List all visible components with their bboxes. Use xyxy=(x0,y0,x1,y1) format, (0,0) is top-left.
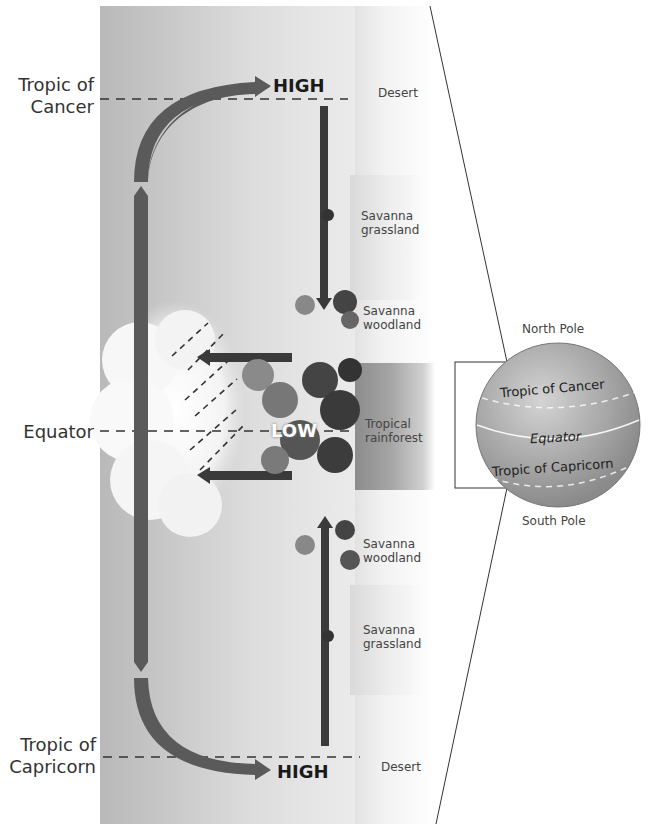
equator-label: Equator xyxy=(0,421,94,443)
savanna-grassland-south-label: Savanna grassland xyxy=(363,623,421,651)
globe-icon xyxy=(476,343,640,507)
tropic-of-cancer-label: Tropic of Cancer xyxy=(0,74,94,118)
globe-equator-label: Equator xyxy=(530,429,582,447)
high-pressure-north-label: HIGH xyxy=(273,75,325,96)
tropic-of-capricorn-label: Tropic of Capricorn xyxy=(0,734,96,778)
north-pole-label: North Pole xyxy=(522,322,584,336)
descending-arrow xyxy=(134,500,148,672)
savanna-grassland-north-label: Savanna grassland xyxy=(361,209,419,237)
savanna-woodland-south-label: Savanna woodland xyxy=(363,537,421,565)
high-pressure-south-label: HIGH xyxy=(277,761,329,782)
savanna-woodland-north-label: Savanna woodland xyxy=(363,304,421,332)
low-pressure-label: LOW xyxy=(271,420,317,441)
desert-north-label: Desert xyxy=(378,86,418,100)
south-pole-label: South Pole xyxy=(522,514,586,528)
diagram-graphics xyxy=(0,0,670,824)
desert-south-label: Desert xyxy=(381,760,421,774)
tropical-rainforest-label: Tropical rainforest xyxy=(365,417,423,445)
